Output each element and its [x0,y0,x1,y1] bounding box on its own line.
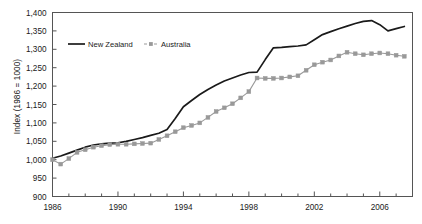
data-point-marker [402,54,406,58]
data-point-marker [312,63,316,67]
x-tick-label: 2002 [305,203,324,212]
legend-label-australia: Australia [161,40,191,49]
data-point-marker [231,102,235,106]
data-point-marker [149,141,153,145]
data-point-marker [165,134,169,138]
data-point-marker [173,130,177,134]
series-line-australia [53,52,405,164]
data-point-marker [132,142,136,146]
data-point-marker [304,68,308,72]
data-point-marker [272,76,276,80]
y-tick-label: 1,400 [26,9,47,18]
data-point-marker [190,124,194,128]
chart-legend: New ZealandAustralia [68,40,191,49]
data-point-marker [263,76,267,80]
data-point-marker [59,162,63,166]
data-point-marker [321,60,325,64]
y-tick-label: 1,100 [26,119,47,128]
data-point-marker [247,90,251,94]
data-point-marker [239,96,243,100]
y-tick-label: 950 [33,174,47,183]
x-axis-tick-marks [53,192,413,197]
y-tick-label: 1,200 [26,82,47,91]
data-point-marker [124,142,128,146]
y-axis-tick-marks [53,31,57,178]
line-chart-plot: 9009501,0001,0501,1001,1501,2001,2501,30… [0,0,422,224]
data-point-marker [100,144,104,148]
x-axis-tick-labels: 198619901994199820022006 [43,203,389,212]
y-tick-label: 1,300 [26,45,47,54]
y-tick-label: 900 [33,193,47,202]
x-tick-label: 1986 [43,203,62,212]
data-point-marker [67,157,71,161]
data-point-marker [222,106,226,110]
data-point-marker [288,75,292,79]
data-point-marker [337,54,341,58]
data-point-marker [353,52,357,56]
data-point-marker [370,52,374,56]
data-point-marker [198,121,202,125]
y-axis-tick-labels: 9009501,0001,0501,1001,1501,2001,2501,30… [26,9,47,202]
y-tick-label: 1,350 [26,27,47,36]
data-point-marker [108,143,112,147]
legend-label-new-zealand: New Zealand [88,40,133,49]
data-point-marker [345,50,349,54]
x-tick-label: 2006 [371,203,390,212]
x-tick-label: 1990 [109,203,128,212]
data-point-marker [280,76,284,80]
data-point-marker [206,115,210,119]
y-tick-label: 1,000 [26,156,47,165]
y-tick-label: 1,250 [26,64,47,73]
x-tick-label: 1998 [240,203,259,212]
y-tick-label: 1,150 [26,101,47,110]
data-point-marker [75,150,79,154]
data-point-marker [296,74,300,78]
data-point-marker [378,51,382,55]
data-point-marker [329,58,333,62]
data-point-marker [51,158,55,162]
data-point-marker [182,126,186,130]
data-point-marker [362,53,366,57]
data-point-marker [214,110,218,114]
data-point-marker [157,138,161,142]
data-point-marker [83,148,87,152]
data-point-marker [394,53,398,57]
data-point-marker [92,145,96,149]
y-tick-label: 1,050 [26,137,47,146]
data-point-marker [255,76,259,80]
data-point-marker [141,142,145,146]
x-tick-label: 1994 [174,203,193,212]
data-point-marker [116,142,120,146]
data-point-marker [386,52,390,56]
chart-container: Index (1986 = 1000) 9009501,0001,0501,10… [0,0,422,224]
